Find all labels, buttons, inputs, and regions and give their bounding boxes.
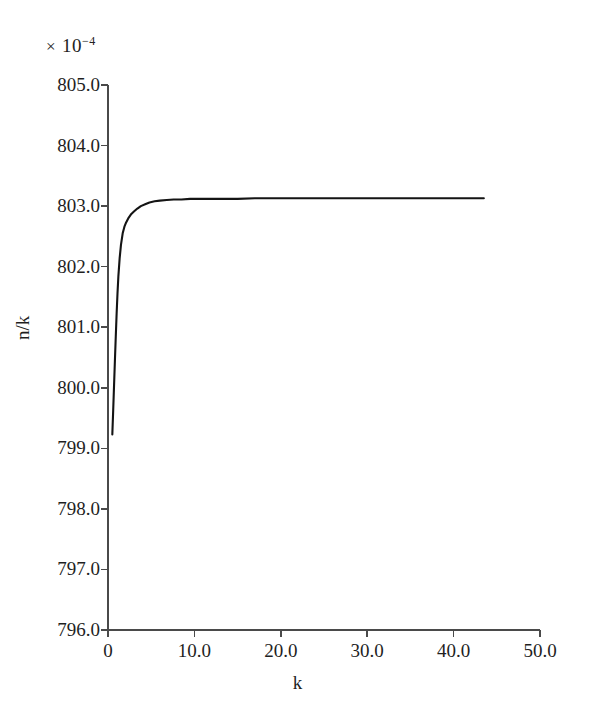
data-series-line <box>112 198 484 434</box>
chart-figure: ×10−4 796.0797.0798.0799.0800.0801.0802.… <box>0 0 589 709</box>
plot-area <box>0 0 589 709</box>
